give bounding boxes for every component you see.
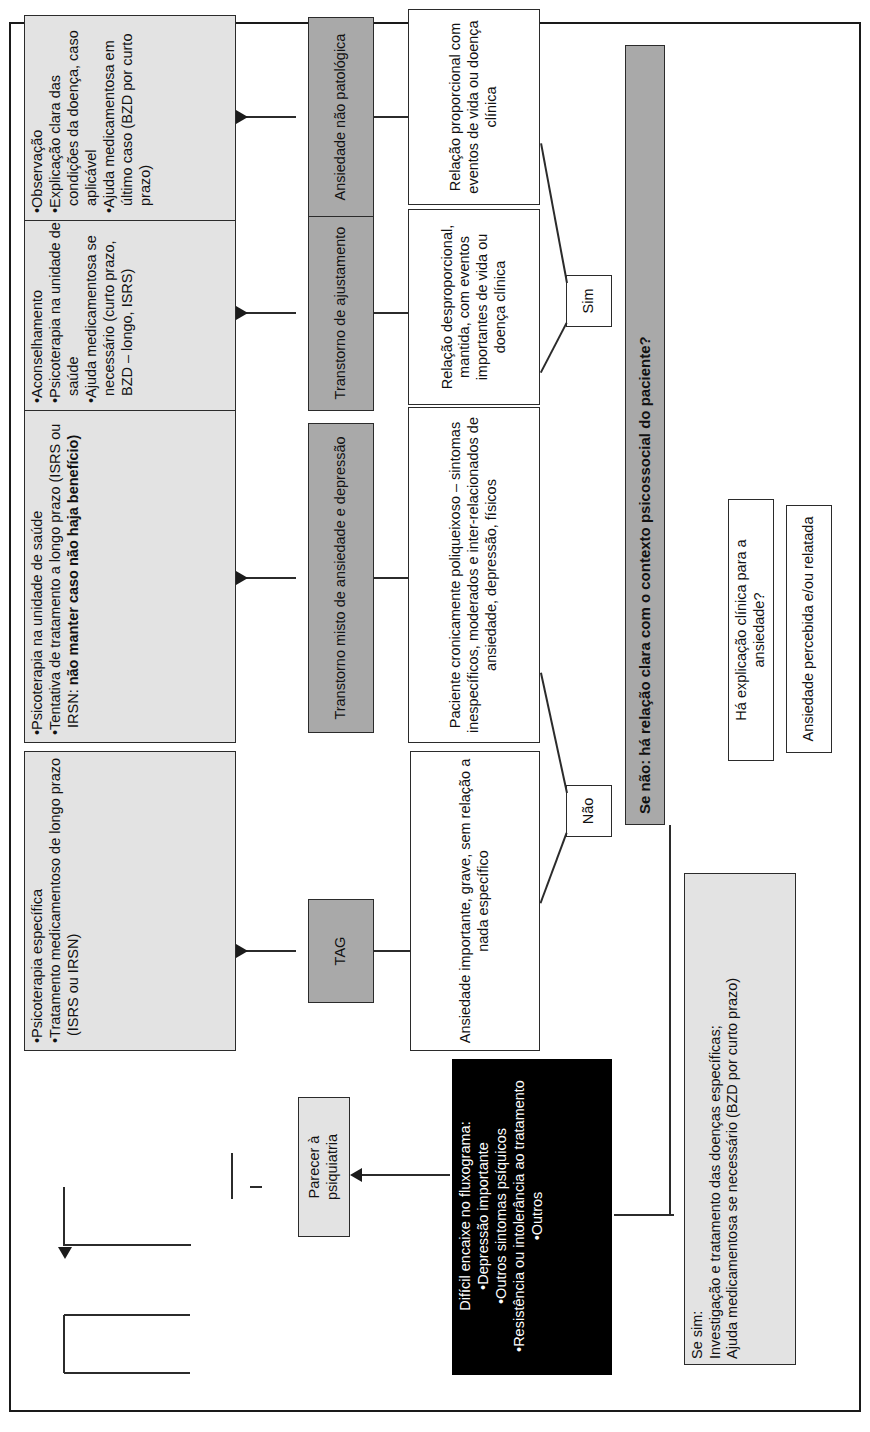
node-diagnosis-nao-patologica-label: Ansiedade não patológica <box>332 23 350 211</box>
connector-q2-psychiatry-run <box>614 1214 674 1216</box>
connector-yes-split-upper <box>540 323 567 374</box>
node-condition-ajustamento-label: Relação desproporcional, mantida, com ev… <box>439 215 510 399</box>
node-treatment-nao-patologica: •Observação •Explicação clara das condiç… <box>24 15 236 221</box>
node-treatment-ajustamento: •Aconselhamento •Psicoterapia na unidade… <box>24 211 236 411</box>
node-diagnosis-tag: TAG <box>308 899 374 1003</box>
node-question-psychosocial-context-label: Se não: há relação clara com o contexto … <box>636 336 654 814</box>
arrow-to-yes-branch <box>58 1247 72 1259</box>
connector-tag-condition-to-diagnosis <box>374 950 410 952</box>
node-psychiatry-referral: Parecer à psiquiatria <box>298 1097 350 1237</box>
treatment-tag-item: •Psicoterapia específica <box>29 757 47 1043</box>
treatment-ajustamento-item: •Aconselhamento <box>29 217 47 403</box>
connector-question1-to-question2 <box>64 1314 190 1316</box>
node-start: Ansiedade percebida e/ou relatada <box>786 505 832 753</box>
branch-label-no: Não <box>566 785 612 837</box>
connector-question1-to-yes-branch <box>63 1187 65 1245</box>
treatment-naopat-list: •Observação •Explicação clara das condiç… <box>29 21 155 215</box>
node-condition-nao-patologica: Relação proporcional com eventos de vida… <box>408 9 540 205</box>
branch-label-yes: Sim <box>566 275 612 327</box>
flowchart-canvas: Ansiedade percebida e/ou relatada Há exp… <box>9 21 861 1411</box>
psychiatry-criteria-item: •Resistência ou intolerância ao tratamen… <box>511 1065 529 1367</box>
node-question-clinical-explanation: Há explicação clínica para a ansiedade? <box>728 499 774 761</box>
flowchart-rotation-wrapper: Ansiedade percebida e/ou relatada Há exp… <box>0 0 870 1432</box>
node-condition-tag: Ansiedade importante, grave, sem relação… <box>410 751 540 1051</box>
node-condition-nao-patologica-label: Relação proporcional com eventos de vida… <box>447 15 500 199</box>
treatment-ajustamento-item: •Psicoterapia na unidade de saúde <box>47 217 83 403</box>
connector-misto-condition-to-diagnosis <box>374 577 408 579</box>
arrow-to-misto-treatment <box>236 571 248 585</box>
node-condition-misto: Paciente cronicamente poliqueixoso – sin… <box>408 407 540 743</box>
connector-naopat-condition-to-diagnosis <box>374 116 408 118</box>
node-condition-ajustamento: Relação desproporcional, mantida, com ev… <box>408 209 540 405</box>
node-diagnosis-misto-label: Transtorno misto de ansiedade e depressã… <box>332 429 350 727</box>
arrow-to-naopat-treatment <box>236 110 248 124</box>
connector-q2-to-psychiatry-run <box>231 1153 233 1199</box>
treatment-naopat-item: •Observação <box>29 21 47 213</box>
branch-label-no-text: Não <box>580 791 598 831</box>
treatment-naopat-item: •Explicação clara das condições da doenç… <box>47 21 101 213</box>
connector-q1-branchpoint <box>63 1244 191 1246</box>
treatment-ajustamento-list: •Aconselhamento •Psicoterapia na unidade… <box>29 217 137 405</box>
node-yes-branch-treatment: Se sim: Investigação e tratamento das do… <box>684 873 796 1365</box>
node-treatment-misto: •Psicoterapia na unidade de saúde •Tenta… <box>24 407 236 743</box>
arrow-to-psychiatry-referral <box>350 1168 362 1182</box>
node-diagnosis-ajustamento: Transtorno de ajustamento <box>308 215 374 411</box>
node-question-psychosocial-context: Se não: há relação clara com o contexto … <box>625 45 665 825</box>
psychiatry-criteria-item: •Outros sintomas psíquicos <box>493 1065 511 1367</box>
arrow-to-tag-treatment <box>236 944 248 958</box>
treatment-misto-item: •Psicoterapia na unidade de saúde <box>29 413 47 735</box>
node-question-clinical-explanation-label: Há explicação clínica para a ansiedade? <box>733 505 768 755</box>
connector-no-split-upper <box>540 833 567 904</box>
psychiatry-criteria-list: Difícil encaixe no fluxograma: •Depressã… <box>457 1065 547 1369</box>
node-yes-branch-treatment-label: Se sim: Investigação e tratamento das do… <box>689 879 742 1359</box>
connector-ajustamento-condition-to-diagnosis <box>374 312 408 314</box>
node-diagnosis-misto: Transtorno misto de ansiedade e depressã… <box>308 423 374 733</box>
connector-yes-split-lower <box>540 143 568 283</box>
treatment-naopat-item: •Ajuda medicamentosa em último caso (BZD… <box>101 21 155 213</box>
psychiatry-criteria-item: •Depressão importante <box>475 1065 493 1367</box>
connector-start-to-question1 <box>64 1372 190 1374</box>
node-condition-misto-label: Paciente cronicamente poliqueixoso – sin… <box>447 413 500 737</box>
treatment-tag-list: •Psicoterapia específica •Tratamento med… <box>29 757 83 1045</box>
treatment-tag-item: •Tratamento medicamentoso de longo prazo… <box>47 757 83 1043</box>
node-psychiatry-referral-label: Parecer à psiquiatria <box>306 1103 341 1231</box>
node-condition-tag-label: Ansiedade importante, grave, sem relação… <box>457 757 492 1045</box>
connector-q2-to-no <box>250 1186 262 1188</box>
psychiatry-criteria-item: •Outros <box>529 1065 547 1367</box>
node-diagnosis-ajustamento-label: Transtorno de ajustamento <box>332 221 350 405</box>
connector-no-split-lower <box>540 673 568 793</box>
treatment-misto-list: •Psicoterapia na unidade de saúde •Tenta… <box>29 413 83 737</box>
psychiatry-criteria-title: Difícil encaixe no fluxograma: <box>457 1065 475 1367</box>
connector-q2-psychiatry-riser2 <box>669 825 671 1215</box>
node-diagnosis-nao-patologica: Ansiedade não patológica <box>308 17 374 217</box>
node-diagnosis-tag-label: TAG <box>332 905 350 997</box>
branch-label-yes-text: Sim <box>580 281 598 321</box>
node-treatment-tag: •Psicoterapia específica •Tratamento med… <box>24 751 236 1051</box>
connector-psychiatry-referral-run <box>352 1174 450 1176</box>
node-start-label: Ansiedade percebida e/ou relatada <box>800 511 818 747</box>
treatment-ajustamento-item: •Ajuda medicamentosa se necessário (curt… <box>83 217 137 403</box>
connector-yes-branch-run <box>63 1315 65 1373</box>
node-psychiatry-criteria: Difícil encaixe no fluxograma: •Depressã… <box>452 1059 612 1375</box>
treatment-misto-item: •Tentativa de tratamento a longo prazo (… <box>47 413 83 735</box>
arrow-to-ajustamento-treatment <box>236 306 248 320</box>
